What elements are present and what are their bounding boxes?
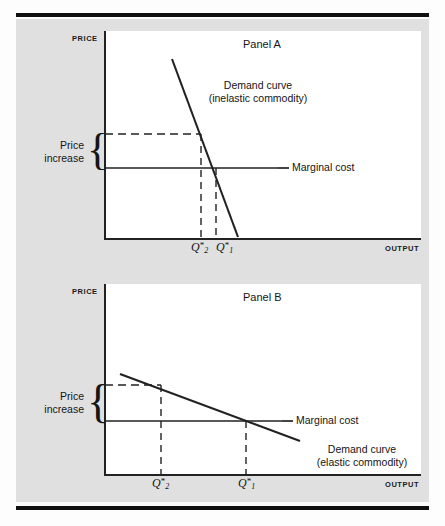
- panel-b-price-increase-brace: {: [87, 379, 109, 425]
- panel-b-q2-label: Q*2: [152, 476, 169, 491]
- panel-b-demand-curve: [120, 374, 300, 441]
- figure-root: PRICE OUTPUT Panel A Demand curve (inela…: [0, 0, 445, 526]
- panel-b-demand-label: Demand curve (elastic commodity): [292, 443, 432, 470]
- panel-b-price-increase-line2: increase: [44, 403, 84, 415]
- panel-b: PRICE OUTPUT Panel B Marginal cost Deman…: [0, 263, 445, 526]
- panel-b-demand-label-line1: Demand curve: [328, 443, 396, 455]
- panel-b-price-increase-line1: Price: [60, 390, 84, 402]
- panel-a-price-increase-brace: {: [87, 128, 108, 172]
- panel-a-marginal-cost-label: Marginal cost: [292, 161, 354, 174]
- panel-a-price-increase-label: Price increase: [27, 139, 84, 166]
- panel-b-marginal-cost-label: Marginal cost: [296, 414, 358, 427]
- panel-a-q2-sub: 2: [204, 246, 208, 255]
- panel-a-curves: [0, 0, 445, 263]
- panel-a-demand-label: Demand curve (inelastic commodity): [193, 79, 323, 106]
- panel-b-demand-label-line2: (elastic commodity): [317, 456, 407, 468]
- panel-b-price-increase-label: Price increase: [27, 390, 84, 417]
- panel-a-price-increase-line1: Price: [60, 139, 84, 151]
- panel-a-price-increase-line2: increase: [44, 152, 84, 164]
- panel-a: PRICE OUTPUT Panel A Demand curve (inela…: [0, 0, 445, 263]
- panel-b-q1-sub: 1: [251, 482, 255, 491]
- panel-b-q2-base: Q: [152, 476, 161, 490]
- panel-a-q1-label: Q*1: [216, 240, 233, 255]
- panel-a-demand-label-line2: (inelastic commodity): [209, 92, 308, 104]
- panel-a-demand-label-line1: Demand curve: [224, 79, 292, 91]
- panel-b-q1-label: Q*1: [238, 476, 255, 491]
- panel-a-q1-sub: 1: [229, 246, 233, 255]
- panel-b-q2-sub: 2: [165, 482, 169, 491]
- panel-a-q1-base: Q: [216, 240, 225, 254]
- panel-a-q2-label: Q*2: [191, 240, 208, 255]
- panel-a-q2-base: Q: [191, 240, 200, 254]
- panel-b-q1-base: Q: [238, 476, 247, 490]
